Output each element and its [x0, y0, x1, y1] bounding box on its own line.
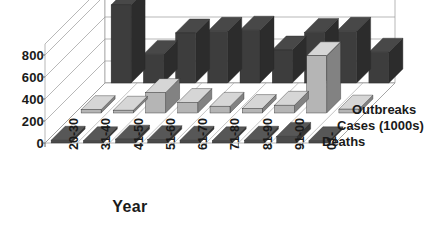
- series-label-cases: Cases (1000s): [337, 119, 424, 132]
- series-label-deaths: Deaths: [322, 135, 365, 148]
- series-label-outbreaks: Outbreaks: [352, 103, 416, 116]
- x-axis-title: Year: [0, 198, 260, 216]
- chart-3d-bar: 800 600 400 200 0 20-3031-4041-5051-6061…: [0, 0, 433, 233]
